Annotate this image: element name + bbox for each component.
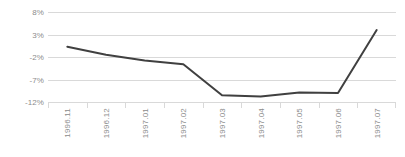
x-tick-label: 1996.11 (63, 108, 72, 138)
x-tick-label: 1997.01 (141, 108, 150, 138)
x-tick-label: 1997.02 (179, 108, 188, 138)
y-tick-label: -7% (29, 75, 44, 84)
y-tick-label: -2% (29, 53, 44, 62)
x-tick-label: 1997.07 (373, 108, 382, 138)
x-tick-label: 1997.04 (257, 108, 266, 138)
y-tick-label: 3% (32, 30, 44, 39)
plot-area (48, 12, 396, 102)
series-line (48, 12, 396, 102)
line-chart: 8% 3% -2% -7% -12% 1996.111996.121997.01… (0, 0, 405, 157)
x-tick-label: 1997.03 (218, 108, 227, 138)
x-tick-label: 1996.12 (102, 108, 111, 138)
x-axis: 1996.111996.121997.011997.021997.031997.… (48, 108, 396, 157)
y-tick-label: -12% (25, 98, 44, 107)
x-tick-label: 1997.06 (334, 108, 343, 138)
x-tick-label: 1997.05 (295, 108, 304, 138)
y-tick-label: 8% (32, 8, 44, 17)
y-axis: 8% 3% -2% -7% -12% (0, 0, 48, 157)
